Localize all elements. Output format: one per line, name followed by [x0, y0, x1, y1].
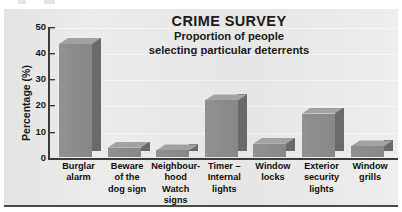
bar — [302, 108, 344, 157]
x-axis-category-label-line: Beware — [101, 161, 154, 172]
x-axis-category-label-line: locks — [246, 172, 299, 183]
x-axis-category-label-line: Exterior — [295, 161, 348, 172]
x-axis-category-label-line: Window — [344, 161, 397, 172]
x-axis-category-label: Exteriorsecuritylights — [295, 161, 348, 195]
top-edge-artifact-right — [44, 0, 55, 4]
x-axis-category-label: Timer –Internallights — [198, 161, 251, 195]
x-axis-category-label-line: Watch — [149, 184, 202, 195]
bar-front-face — [156, 150, 189, 157]
x-axis-category-label-line: security — [295, 172, 348, 183]
bar — [156, 144, 198, 157]
bar-side-face — [238, 94, 247, 151]
x-axis-category-label-line: Internal — [198, 172, 251, 183]
bar — [205, 94, 247, 157]
top-edge-artifact-left — [18, 0, 26, 4]
bar — [59, 38, 101, 157]
y-axis-tick — [50, 158, 55, 160]
y-axis-tick-label: 40 — [18, 48, 46, 58]
y-axis-tick-label: 20 — [18, 100, 46, 110]
x-axis-category-label-line: signs — [149, 195, 202, 206]
x-axis-category-label-line: lights — [295, 184, 348, 195]
bar-front-face — [59, 44, 92, 157]
chart-screenshot: CRIME SURVEY Proportion of people select… — [0, 0, 402, 212]
x-axis-category-label-line: lights — [198, 184, 251, 195]
x-axis-category-label-line: Timer – — [198, 161, 251, 172]
chart-plot-area: CRIME SURVEY Proportion of people select… — [4, 9, 398, 205]
x-axis-line — [48, 158, 398, 160]
bar — [351, 140, 393, 157]
x-axis-category-label-line: of the — [101, 172, 154, 183]
bar-front-face — [351, 146, 384, 157]
x-axis-category-label: Burglaralarm — [52, 161, 105, 184]
x-axis-category-label-line: Window — [246, 161, 299, 172]
chart-panel: CRIME SURVEY Proportion of people select… — [4, 9, 398, 207]
y-axis-tick-label: 50 — [18, 22, 46, 32]
gridline — [50, 54, 398, 55]
y-axis-tick-label: 0 — [18, 153, 46, 163]
x-axis-category-label: Neighbour-hoodWatchsigns — [149, 161, 202, 207]
x-axis-category-label: Windowgrills — [344, 161, 397, 184]
chart-subtitle-line-1: Proportion of people — [64, 30, 394, 44]
x-axis-category-label-line: hood — [149, 172, 202, 183]
gridline — [50, 28, 398, 29]
gridline — [50, 80, 398, 81]
x-axis-category-label-line: alarm — [52, 172, 105, 183]
x-axis-category-label: Windowlocks — [246, 161, 299, 184]
bar-front-face — [302, 114, 335, 157]
bar-front-face — [108, 148, 141, 157]
bar — [253, 138, 295, 157]
x-axis-category-label-line: Neighbour- — [149, 161, 202, 172]
bar-front-face — [253, 144, 286, 157]
chart-title-block: CRIME SURVEY Proportion of people select… — [64, 13, 394, 57]
x-axis-category-label-line: grills — [344, 172, 397, 183]
y-axis-line — [48, 27, 50, 159]
bar-side-face — [92, 38, 101, 151]
x-axis-category-label-line: dog sign — [101, 184, 154, 195]
x-axis-category-label: Bewareof thedog sign — [101, 161, 154, 195]
y-axis-tick-label: 10 — [18, 127, 46, 137]
y-axis-tick-label: 30 — [18, 74, 46, 84]
x-axis-category-label-line: Burglar — [52, 161, 105, 172]
bar-side-face — [335, 108, 344, 151]
chart-subtitle-line-2: selecting particular deterrents — [64, 44, 394, 58]
bar-front-face — [205, 100, 238, 157]
bar — [108, 142, 150, 157]
